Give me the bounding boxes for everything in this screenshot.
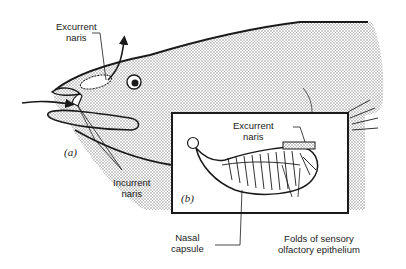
label-line: Nasal [171, 232, 204, 243]
label-line: Folds of sensory [278, 233, 360, 244]
label-incurrent-naris: Incurrent naris [113, 177, 151, 199]
panel-a-label: (a) [64, 147, 77, 158]
panel-b-label: (b) [181, 193, 194, 204]
label-folds-olfactory-epithelium: Folds of sensory olfactory epithelium [278, 233, 360, 255]
label-line: naris [113, 188, 151, 199]
label-line: Excurrent [233, 120, 274, 131]
label-line: naris [56, 32, 97, 43]
label-line: Excurrent [56, 21, 97, 32]
label-line: Incurrent [113, 177, 151, 188]
label-nasal-capsule: Nasal capsule [171, 232, 204, 254]
label-line: capsule [171, 243, 204, 254]
label-line: olfactory epithelium [278, 244, 360, 255]
label-excurrent-naris-a: Excurrent naris [56, 21, 97, 43]
label-excurrent-naris-b: Excurrent naris [233, 120, 274, 142]
label-line: naris [233, 131, 274, 142]
